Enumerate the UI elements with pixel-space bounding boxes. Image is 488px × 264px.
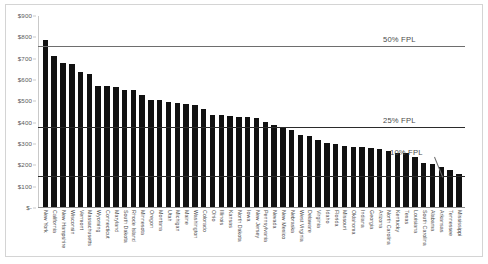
bar[interactable] [236, 117, 241, 208]
y-axis-tick-mark [33, 144, 36, 145]
x-axis-baseline [38, 207, 465, 208]
bar-slot [349, 16, 358, 208]
bar-slot [358, 16, 367, 208]
bar[interactable] [315, 140, 320, 208]
bar[interactable] [201, 109, 206, 208]
bar[interactable] [412, 157, 417, 208]
x-axis-label-slot: Delaware [305, 209, 314, 259]
x-axis-label-slot: Wyoming [94, 209, 103, 259]
chart-container: $-$100$200$300$400$500$600$700$800$900 5… [0, 0, 488, 264]
bar-slot [173, 16, 182, 208]
bar[interactable] [122, 90, 127, 208]
bar-slot [270, 16, 279, 208]
bar[interactable] [368, 148, 373, 208]
x-axis-tick-label: California [52, 210, 57, 233]
x-axis-tick-label: Missouri [342, 210, 347, 230]
bar-slot [454, 16, 463, 208]
x-axis-tick-label: Wisconsin [69, 210, 74, 235]
y-axis-tick-label: $600 [18, 77, 32, 83]
bar-slot [243, 16, 252, 208]
x-axis-label-slot: Maine [182, 209, 191, 259]
x-axis-tick-label: Virginia [315, 210, 320, 228]
bar[interactable] [298, 135, 303, 208]
x-axis-label-slot: Indiana [358, 209, 367, 259]
bar[interactable] [51, 56, 56, 208]
bar[interactable] [289, 130, 294, 209]
y-axis-tick-mark [33, 186, 36, 187]
x-axis-label-slot: Pennsylvania [261, 209, 270, 259]
bar[interactable] [69, 64, 74, 208]
x-axis-label-slot: Kentucky [393, 209, 402, 259]
bar[interactable] [245, 117, 250, 208]
bar[interactable] [421, 163, 426, 208]
bar[interactable] [386, 151, 391, 208]
bar[interactable] [395, 153, 400, 208]
bar[interactable] [157, 100, 162, 208]
bar[interactable] [183, 104, 188, 208]
bar[interactable] [280, 127, 285, 208]
bar[interactable] [403, 153, 408, 208]
x-axis-tick-label: New Mexico [280, 210, 285, 239]
x-axis-tick-label: Minnesota [140, 210, 145, 235]
x-axis-label-slot: Arkansas [437, 209, 446, 259]
x-axis-tick-label: Oregon [148, 210, 153, 228]
x-axis-label-slot: Massachusetts [85, 209, 94, 259]
x-axis-tick-label: Idaho [324, 210, 329, 224]
bar[interactable] [227, 116, 232, 208]
x-axis-tick-label: Connecticut [104, 210, 109, 239]
x-axis-label-slot: Nebraska [287, 209, 296, 259]
x-axis-tick-label: North Carolina [386, 210, 391, 245]
bar-slot [428, 16, 437, 208]
x-axis-label-slot: Michigan [173, 209, 182, 259]
x-axis-label-slot: Connecticut [103, 209, 112, 259]
bar[interactable] [307, 136, 312, 208]
bar[interactable] [263, 122, 268, 208]
bar[interactable] [60, 63, 65, 208]
y-axis-tick-label: $100 [18, 184, 32, 190]
bar-slot [217, 16, 226, 208]
bar[interactable] [166, 102, 171, 208]
bar[interactable] [456, 174, 461, 208]
x-axis-label-slot: Ohio [208, 209, 217, 259]
bar[interactable] [148, 100, 153, 208]
bar[interactable] [175, 103, 180, 208]
bar-slot [437, 16, 446, 208]
bar[interactable] [219, 115, 224, 208]
bar[interactable] [192, 105, 197, 208]
bar[interactable] [359, 147, 364, 208]
bar[interactable] [104, 86, 109, 208]
x-axis-label-slot: Montana [155, 209, 164, 259]
y-axis-tick-mark [33, 80, 36, 81]
x-axis-label-slot: North Dakota [235, 209, 244, 259]
x-axis-label-slot: Rhode Island [129, 209, 138, 259]
bar-slot [41, 16, 50, 208]
bar[interactable] [78, 72, 83, 208]
bar[interactable] [430, 164, 435, 208]
x-axis-tick-label: Louisiana [412, 210, 417, 233]
bar-slot [366, 16, 375, 208]
bar[interactable] [139, 95, 144, 208]
bar[interactable] [87, 74, 92, 208]
x-axis-tick-label: Colorado [201, 210, 206, 232]
bar[interactable] [342, 146, 347, 208]
bar[interactable] [210, 115, 215, 208]
bar[interactable] [113, 87, 118, 208]
bar[interactable] [131, 90, 136, 208]
y-axis-tick-mark [33, 208, 36, 209]
bar-slot [323, 16, 332, 208]
bar-slot [94, 16, 103, 208]
x-axis-tick-label: Maryland [113, 210, 118, 232]
y-axis-tick-label: $400 [18, 120, 32, 126]
bar[interactable] [271, 125, 276, 208]
bar[interactable] [43, 40, 48, 208]
bar[interactable] [377, 149, 382, 208]
x-axis-label-slot: Nevada [270, 209, 279, 259]
bar-slot [331, 16, 340, 208]
bar[interactable] [95, 86, 100, 208]
bar[interactable] [254, 118, 259, 208]
bar-slot [446, 16, 455, 208]
bar[interactable] [351, 147, 356, 208]
bar-slot [314, 16, 323, 208]
bar-slot [50, 16, 59, 208]
reference-line-label: 50% FPL [383, 35, 416, 44]
